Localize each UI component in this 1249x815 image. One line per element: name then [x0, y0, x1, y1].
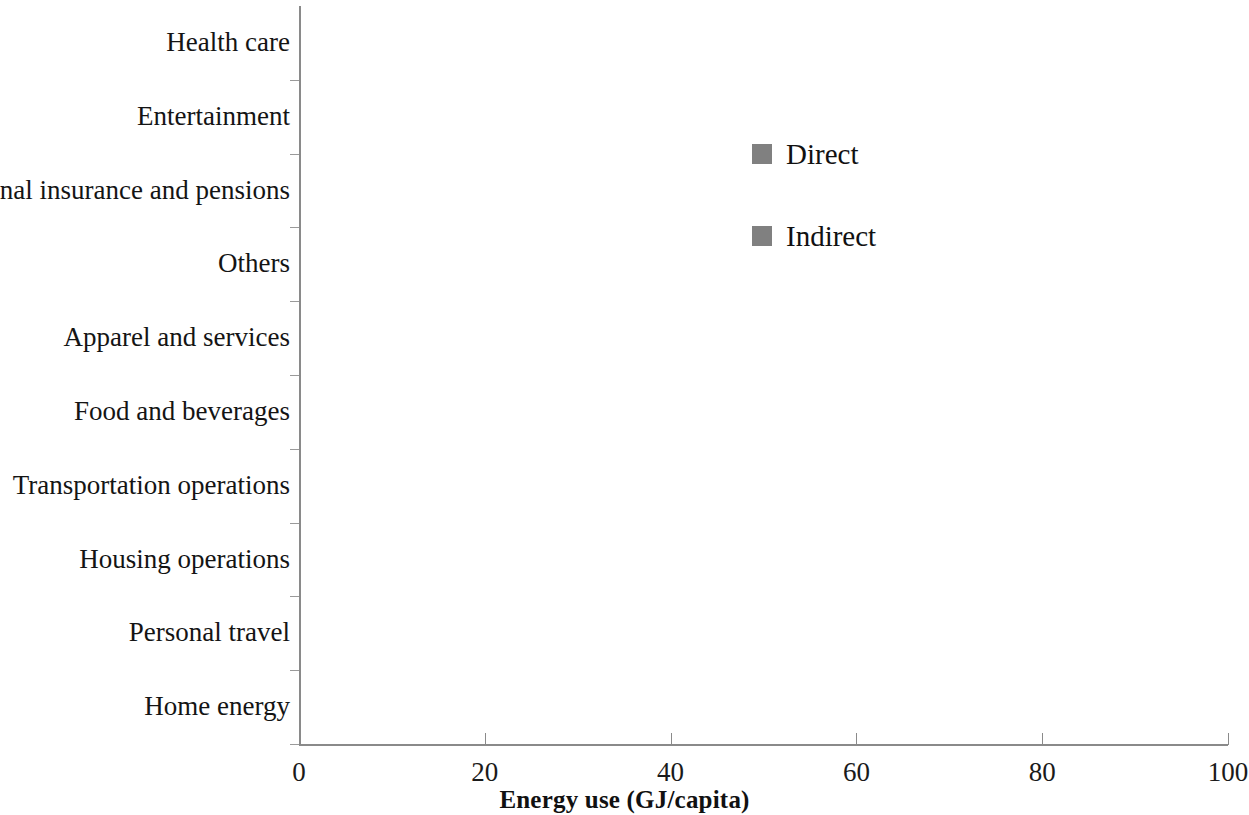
- x-axis-title: Energy use (GJ/capita): [0, 786, 1249, 814]
- category-label: Food and beverages: [74, 396, 290, 426]
- legend-item-indirect: Indirect: [752, 214, 876, 258]
- bar: [299, 319, 392, 357]
- bar: [299, 24, 319, 62]
- value-tick-label: 40: [626, 757, 716, 787]
- category-tick: [290, 301, 299, 302]
- category-label: Transportation operations: [13, 470, 290, 500]
- bar: [299, 541, 1179, 579]
- category-label: Apparel and services: [64, 322, 290, 352]
- category-tick: [290, 375, 299, 376]
- bar: [299, 245, 356, 283]
- category-label: Housing operations: [79, 544, 290, 574]
- category-tick: [290, 596, 299, 597]
- category-tick: [290, 449, 299, 450]
- legend-swatch-direct: [752, 144, 772, 164]
- bar: [299, 393, 520, 431]
- category-tick: [290, 744, 299, 745]
- value-axis-line: [299, 744, 1228, 746]
- bar-chart: Health careEntertainmentPersonal insuran…: [0, 0, 1249, 815]
- category-label: Others: [218, 248, 290, 278]
- category-label: Health care: [166, 27, 290, 57]
- legend-swatch-indirect: [752, 226, 772, 246]
- category-tick: [290, 154, 299, 155]
- category-tick: [290, 80, 299, 81]
- value-tick-label: 60: [811, 757, 901, 787]
- value-tick: [856, 733, 857, 745]
- value-tick: [671, 733, 672, 745]
- bar: [299, 688, 680, 726]
- chart-legend: Direct Indirect: [752, 132, 876, 296]
- category-tick: [290, 523, 299, 524]
- value-tick-label: 0: [254, 757, 344, 787]
- bar: [299, 172, 341, 210]
- category-label: Personal travel: [129, 617, 290, 647]
- category-label: Entertainment: [137, 101, 290, 131]
- value-tick: [485, 733, 486, 745]
- value-tick: [1228, 733, 1229, 745]
- category-tick: [290, 670, 299, 671]
- legend-item-direct: Direct: [752, 132, 876, 176]
- legend-label-indirect: Indirect: [786, 220, 876, 252]
- category-tick: [290, 227, 299, 228]
- value-tick: [1042, 733, 1043, 745]
- category-label: Personal insurance and pensions: [0, 175, 290, 205]
- value-tick-label: 80: [997, 757, 1087, 787]
- value-tick-label: 100: [1183, 757, 1249, 787]
- value-tick-label: 20: [440, 757, 530, 787]
- category-label: Home energy: [144, 691, 290, 721]
- bar: [299, 98, 341, 136]
- legend-label-direct: Direct: [786, 138, 858, 170]
- bar: [299, 467, 899, 505]
- value-tick: [299, 733, 300, 745]
- bar: [299, 614, 899, 652]
